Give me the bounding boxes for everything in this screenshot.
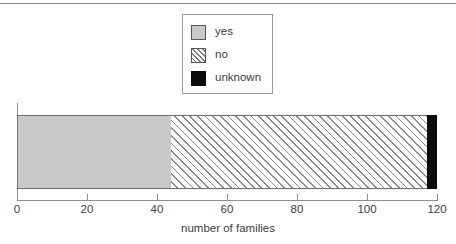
solid-black-swatch-icon: [191, 71, 206, 86]
legend-label-unknown: unknown: [215, 72, 261, 84]
stacked-bar: [17, 115, 437, 189]
x-tick-80: [297, 194, 298, 200]
legend-label-yes: yes: [215, 26, 233, 38]
x-tick-60: [227, 194, 228, 200]
bar-segment-yes: [17, 115, 171, 189]
x-tick-20: [87, 194, 88, 200]
x-axis-title: number of families: [0, 222, 456, 235]
legend-item-no: no: [191, 47, 228, 63]
x-tick-0: [17, 194, 18, 200]
x-tick-40: [157, 194, 158, 200]
x-tick-100: [367, 194, 368, 200]
chart-legend: yes no unknown: [182, 14, 273, 94]
x-tick-label-60: 60: [221, 203, 234, 216]
x-tick-label-80: 80: [291, 203, 304, 216]
x-axis-line: [17, 200, 438, 201]
bar-segment-unknown: [427, 115, 438, 189]
x-tick-label-40: 40: [151, 203, 164, 216]
x-tick-label-120: 120: [427, 203, 446, 216]
x-tick-label-20: 20: [81, 203, 94, 216]
legend-label-no: no: [215, 49, 228, 61]
x-tick-120: [437, 194, 438, 200]
x-tick-label-100: 100: [357, 203, 376, 216]
hatched-swatch-icon: [191, 48, 206, 63]
legend-item-yes: yes: [191, 24, 233, 40]
solid-gray-swatch-icon: [191, 25, 206, 40]
bar-segment-no: [171, 115, 427, 189]
x-tick-label-0: 0: [14, 203, 20, 216]
stacked-bar-chart-figure: yes no unknown 020406080100120 number of…: [0, 0, 456, 244]
top-divider-rule: [0, 3, 456, 4]
legend-item-unknown: unknown: [191, 70, 261, 86]
